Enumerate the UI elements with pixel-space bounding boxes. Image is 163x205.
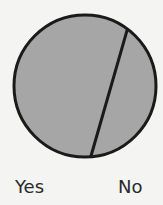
label-yes: Yes [15,176,44,198]
label-no: No [118,176,142,198]
pie-chart [0,0,163,205]
